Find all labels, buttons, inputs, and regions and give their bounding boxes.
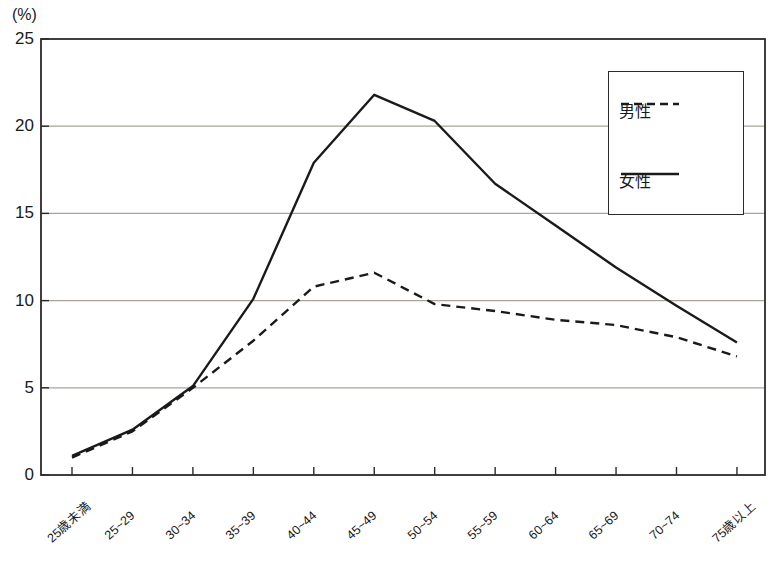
chart-container: (%) 0510152025 25歳未満25~2930~3435~3940~44…: [0, 0, 774, 561]
legend-line-solid-icon: [619, 168, 681, 180]
legend-item: 男性: [619, 98, 651, 122]
chart-legend: 男性女性: [608, 71, 744, 215]
y-axis-tick-label: 25: [0, 29, 34, 49]
y-axis-tick-label: 15: [0, 203, 34, 223]
legend-item: 女性: [619, 168, 651, 192]
y-axis-tick-label: 0: [0, 465, 34, 485]
legend-line-dashed-icon: [619, 98, 681, 110]
y-axis-tick-label: 10: [0, 291, 34, 311]
y-axis-tick-label: 5: [0, 378, 34, 398]
y-axis-tick-label: 20: [0, 116, 34, 136]
